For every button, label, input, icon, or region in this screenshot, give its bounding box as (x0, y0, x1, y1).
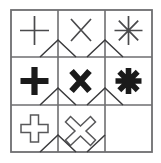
bold-asterisk-icon (116, 68, 142, 94)
blank-answer-area (106, 106, 151, 151)
matrix-grid-svg (0, 0, 161, 163)
cell-r3c3-blank-answer (106, 106, 151, 151)
matrix-reasoning-puzzle: Matrix Reasoning Puzzle Three-by-three m… (0, 0, 161, 163)
cell-r2c3-bold-asterisk (116, 68, 142, 94)
